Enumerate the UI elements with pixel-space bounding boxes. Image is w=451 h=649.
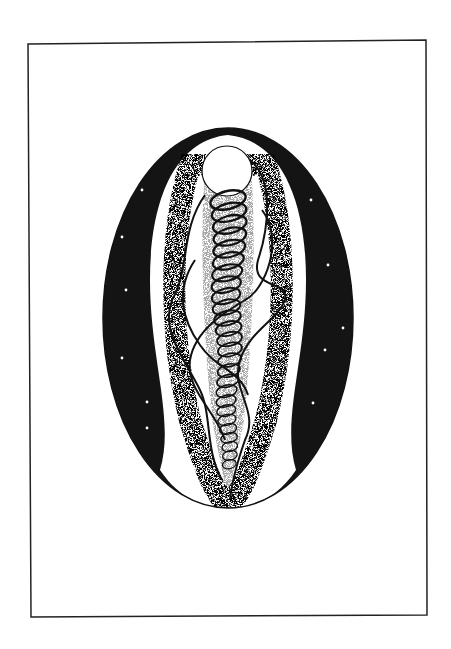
star-icon	[327, 264, 330, 267]
stipple-shading	[0, 0, 451, 649]
star-icon	[312, 402, 315, 405]
star-icon	[125, 289, 128, 292]
star-icon	[146, 401, 149, 404]
star-icon	[141, 189, 144, 192]
star-icon	[121, 236, 124, 239]
star-icon	[121, 357, 124, 360]
star-icon	[342, 327, 345, 330]
star-icon	[310, 199, 313, 202]
artwork-canvas	[0, 0, 451, 649]
star-icon	[146, 427, 149, 430]
moon-orb	[202, 146, 252, 196]
star-icon	[324, 349, 327, 352]
